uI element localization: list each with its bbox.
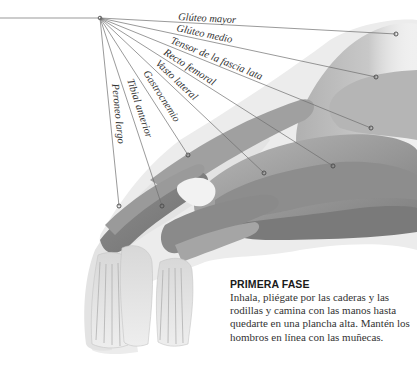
label-gluteo-mayor: Glúteo mayor — [178, 11, 237, 25]
leader-gluteo-mayor — [100, 18, 396, 34]
caption-title: PRIMERA FASE — [230, 278, 415, 291]
instruction-caption: PRIMERA FASE Inhala, pliégate por las ca… — [230, 278, 415, 344]
feet-skeleton — [91, 246, 193, 348]
caption-body: Inhala, pliégate por las caderas y las r… — [230, 291, 415, 344]
